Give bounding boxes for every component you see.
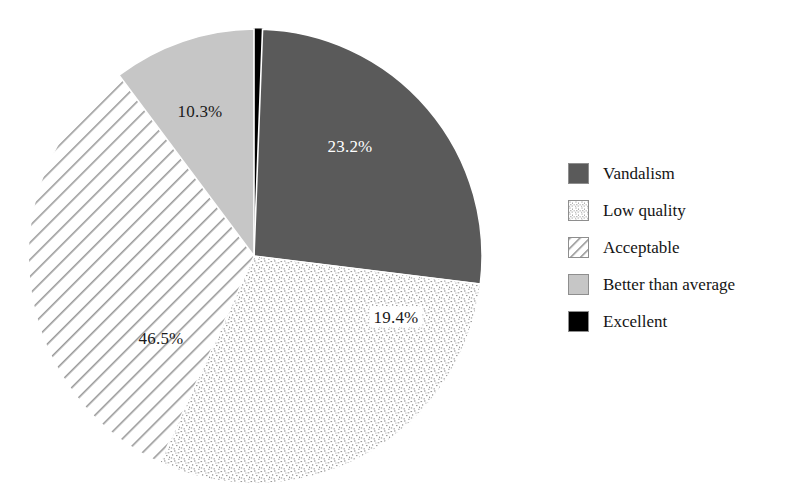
legend-label-excellent: Excellent (603, 313, 667, 330)
pie-chart-figure: 23.2% 19.4% 46.5% 10.3% Vandalism Low qu… (0, 0, 797, 499)
slice-value-vandalism: 23.2% (328, 138, 373, 155)
legend-item-excellent[interactable]: Excellent (568, 303, 793, 340)
pie-plot-area: 23.2% 19.4% 46.5% 10.3% (0, 0, 530, 499)
legend-label-vandalism: Vandalism (603, 165, 675, 182)
legend-swatch-excellent-icon (568, 311, 589, 332)
legend-item-better-than-average[interactable]: Better than average (568, 266, 793, 303)
legend-swatch-low-quality-icon (568, 200, 589, 221)
legend-swatch-vandalism-icon (568, 163, 589, 184)
chart-legend: Vandalism Low quality Acceptable Better … (568, 155, 793, 340)
legend-item-acceptable[interactable]: Acceptable (568, 229, 793, 266)
pie-slice-vandalism[interactable] (254, 29, 482, 284)
legend-label-acceptable: Acceptable (603, 239, 679, 256)
legend-label-better-than-average: Better than average (603, 276, 735, 293)
legend-item-low-quality[interactable]: Low quality (568, 192, 793, 229)
legend-swatch-better-than-average-icon (568, 274, 589, 295)
legend-label-low-quality: Low quality (603, 202, 686, 219)
slice-value-better-than-average: 10.3% (178, 103, 223, 120)
legend-swatch-acceptable-icon (568, 237, 589, 258)
pie-svg (0, 0, 530, 499)
slice-value-acceptable: 46.5% (139, 330, 184, 347)
legend-item-vandalism[interactable]: Vandalism (568, 155, 793, 192)
slice-value-low-quality: 19.4% (370, 307, 423, 328)
